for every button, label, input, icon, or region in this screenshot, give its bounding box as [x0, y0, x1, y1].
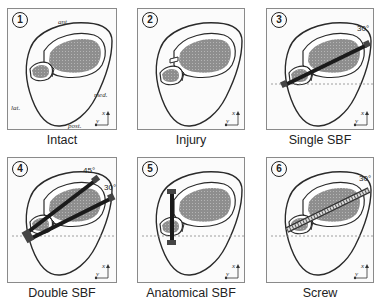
axis-y-label: y [96, 270, 99, 278]
axis-y-label: y [226, 270, 229, 278]
axis-x-label: x [102, 109, 105, 117]
label-lateral: lat. [11, 104, 20, 112]
label-posterior: post. [68, 122, 81, 130]
axis-x-label: x [361, 262, 364, 270]
axis-x-label: x [102, 262, 105, 270]
axis-y-label: y [355, 117, 358, 125]
panel-number-badge: 5 [142, 161, 158, 177]
caption-anatomical-sbf: Anatomical SBF [126, 286, 256, 300]
axis-x-label: x [361, 109, 364, 117]
axis-x-label: x [232, 262, 235, 270]
caption-double-sbf: Double SBF [0, 286, 127, 300]
panel-single-sbf: 3 30° x y [266, 8, 374, 130]
caption-intact: Intact [0, 133, 127, 147]
caption-single-sbf: Single SBF [255, 133, 379, 147]
bone-cross-section [138, 9, 246, 131]
panel-number-badge: 6 [271, 161, 287, 177]
panel-number-badge: 4 [12, 161, 28, 177]
axis-y-label: y [355, 270, 358, 278]
angle-label-45: 45° [83, 166, 95, 175]
bone-cross-section [138, 158, 246, 284]
panel-double-sbf: 4 45° 30° x y [7, 157, 117, 283]
caption-injury: Injury [126, 133, 256, 147]
panel-number-badge: 3 [271, 12, 287, 28]
axis-x-label: x [232, 109, 235, 117]
panel-injury: 2 x y [137, 8, 245, 130]
panel-screw: 6 30° x y [266, 157, 374, 283]
panel-intact: 1 ant. med. lat. post. x y [7, 8, 117, 130]
angle-label: 30° [359, 174, 371, 183]
angle-label-30: 30° [104, 183, 116, 192]
angle-label: 30° [357, 24, 369, 33]
panel-anatomical-sbf: 5 x y [137, 157, 245, 283]
caption-screw: Screw [255, 286, 379, 300]
panel-number-badge: 1 [12, 12, 28, 28]
axis-y-label: y [96, 117, 99, 125]
panel-number-badge: 2 [142, 12, 158, 28]
label-anterior: ant. [58, 18, 69, 26]
axis-y-label: y [226, 117, 229, 125]
label-medial: med. [94, 91, 107, 99]
